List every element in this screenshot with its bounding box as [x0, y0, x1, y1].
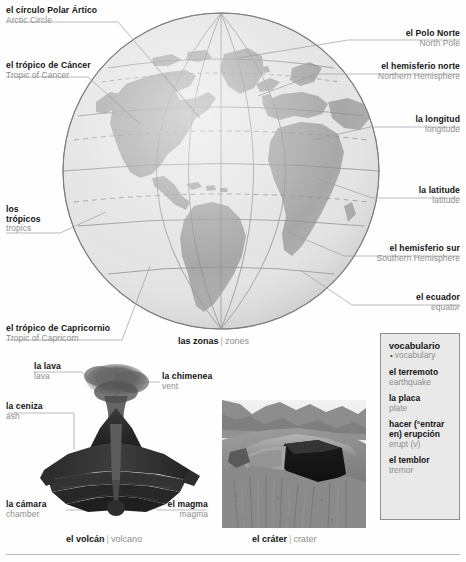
vocabulary-entry-plate: la placa plate: [389, 394, 453, 413]
label-tropic-of-capricorn-en: Tropic of Capricorn: [6, 334, 110, 343]
label-chamber-en: chamber: [6, 510, 47, 519]
label-tropic-of-capricorn: el trópico de Capricornio Tropic of Capr…: [6, 324, 110, 343]
crater-svg: [222, 400, 366, 528]
vocabulary-entry-erupt: hacer (°entrar en) erupción erupt (v): [389, 420, 453, 449]
vocabulary-entry-tremor: el temblor tremor: [389, 456, 453, 475]
label-southern-hemisphere-en: Southern Hemisphere: [377, 254, 460, 263]
label-ash-en: ash: [6, 412, 43, 421]
caption-zones-es: las zonas: [178, 336, 219, 346]
vocabulary-entry-tremor-en: tremor: [389, 466, 453, 476]
vocabulary-heading-en: vocabulary: [395, 350, 436, 360]
label-lava-en: lava: [34, 372, 61, 381]
worksheet-page: el círculo Polar Ártico Arctic Circle el…: [0, 0, 466, 562]
globe-svg: [56, 6, 386, 336]
label-longitude: la longitud longitude: [415, 115, 460, 134]
label-magma: el magma magma: [146, 500, 208, 519]
label-chamber: la cámara chamber: [6, 500, 47, 519]
vocabulary-heading-en-row: •vocabulary: [389, 351, 453, 361]
label-tropics: los trópicos tropics: [6, 205, 41, 234]
label-north-pole: el Polo Norte North Pole: [406, 29, 460, 48]
globe-illustration: [56, 6, 386, 336]
volcano-vent-conduit: [110, 424, 122, 482]
caption-zones: las zonas|zones: [178, 336, 249, 346]
caption-crater-es: el cráter: [252, 534, 287, 544]
label-tropics-en: tropics: [6, 224, 41, 233]
caption-crater: el cráter|crater: [252, 534, 316, 544]
vocabulary-box: vocabulario •vocabulary el terremoto ear…: [380, 333, 460, 520]
label-tropic-of-cancer: el trópico de Cáncer Tropic of Cancer: [6, 61, 91, 80]
label-equator-en: equator: [416, 303, 460, 312]
vocabulary-entry-plate-en: plate: [389, 404, 453, 414]
label-magma-en: magma: [146, 510, 208, 519]
volcano-chamber-body: [107, 500, 125, 516]
vocabulary-entry-erupt-en: erupt (v): [389, 440, 453, 450]
caption-volcano-es: el volcán: [66, 534, 105, 544]
caption-crater-en: crater: [293, 534, 316, 544]
label-equator: el ecuador equator: [416, 293, 460, 312]
label-tropic-of-cancer-en: Tropic of Cancer: [6, 71, 91, 80]
label-latitude: la latitude latitude: [419, 186, 460, 205]
page-rule: [6, 554, 460, 555]
label-vent-en: vent: [162, 382, 212, 391]
label-northern-hemisphere-en: Northern Hemisphere: [378, 72, 460, 81]
label-north-pole-en: North Pole: [406, 39, 460, 48]
label-latitude-en: latitude: [419, 196, 460, 205]
label-vent: la chimenea vent: [162, 372, 212, 391]
vocabulary-entry-earthquake-en: earthquake: [389, 378, 453, 388]
label-ash: la ceniza ash: [6, 402, 43, 421]
vocabulary-heading: vocabulario •vocabulary: [389, 341, 453, 361]
caption-zones-en: zones: [225, 336, 249, 346]
caption-volcano-en: volcano: [111, 534, 142, 544]
label-arctic-circle-en: Arctic Circle: [6, 16, 97, 25]
label-northern-hemisphere: el hemisferio norte Northern Hemisphere: [378, 62, 460, 81]
label-southern-hemisphere: el hemisferio sur Southern Hemisphere: [377, 244, 460, 263]
label-longitude-en: longitude: [415, 125, 460, 134]
label-lava: la lava lava: [34, 362, 61, 381]
vocabulary-entry-earthquake: el terremoto earthquake: [389, 368, 453, 387]
vocabulary-entry-erupt-es: hacer (°entrar en) erupción: [389, 420, 453, 439]
crater-photo: [222, 400, 366, 528]
label-arctic-circle: el círculo Polar Ártico Arctic Circle: [6, 6, 97, 25]
caption-volcano: el volcán|volcano: [66, 534, 142, 544]
